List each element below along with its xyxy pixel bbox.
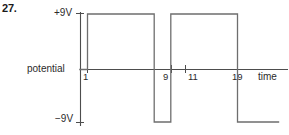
waveform-figure: 27. +9V potential −9V 1 9 11 19 time bbox=[0, 0, 289, 135]
waveform-plot bbox=[0, 0, 289, 135]
waveform-trace bbox=[79, 14, 279, 122]
